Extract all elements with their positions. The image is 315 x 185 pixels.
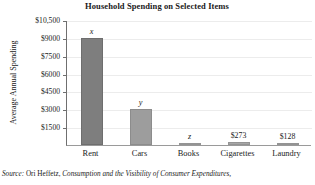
y-tick-mark	[63, 128, 67, 129]
bar-cars[interactable]	[130, 109, 152, 145]
y-tick-mark	[63, 110, 67, 111]
source-citation: Source: Ori Heffetz, Consumption and the…	[2, 170, 231, 178]
y-tick-label: $10,500	[35, 16, 60, 25]
source-keyword: Source:	[2, 170, 24, 178]
bar-value-label: $128	[264, 132, 312, 141]
bar-value-label: z	[166, 132, 214, 141]
bar-laundry[interactable]	[277, 143, 299, 146]
y-tick-label: $1500	[41, 123, 60, 132]
bar-rent[interactable]	[81, 38, 103, 145]
bar-value-label: $273	[215, 131, 263, 140]
gridline	[67, 21, 312, 22]
bar-value-label: y	[117, 98, 165, 107]
gridline	[67, 110, 312, 111]
plot-frame: xyz$273$128 $1500$3000$4500$6000$7500$90…	[66, 21, 311, 146]
y-tick-label: $4500	[41, 87, 60, 96]
gridline	[67, 128, 312, 129]
y-tick-mark	[63, 57, 67, 58]
y-tick-mark	[63, 21, 67, 22]
gridline	[67, 92, 312, 93]
gridline	[67, 75, 312, 76]
y-axis-title: Average Annual Spending	[9, 18, 18, 148]
bar-cigarettes[interactable]	[228, 142, 250, 145]
y-tick-mark	[63, 92, 67, 93]
y-tick-label: $9000	[41, 34, 60, 43]
y-tick-label: $7500	[41, 52, 60, 61]
bar-value-label: x	[68, 27, 116, 36]
gridline	[67, 57, 312, 58]
y-tick-mark	[63, 39, 67, 40]
y-tick-label: $6000	[41, 70, 60, 79]
x-category-label-laundry: Laundry	[257, 149, 315, 158]
gridline	[67, 39, 312, 40]
source-work: Consumption and the Visibility of Consum…	[62, 170, 231, 178]
plot-area: xyz$273$128	[67, 21, 311, 145]
chart-figure: Household Spending on Selected Items Ave…	[0, 0, 314, 185]
bar-books[interactable]	[179, 143, 201, 146]
chart-title: Household Spending on Selected Items	[0, 1, 314, 11]
y-tick-mark	[63, 75, 67, 76]
y-tick-label: $3000	[41, 105, 60, 114]
source-author: Ori Heffetz,	[24, 170, 62, 178]
